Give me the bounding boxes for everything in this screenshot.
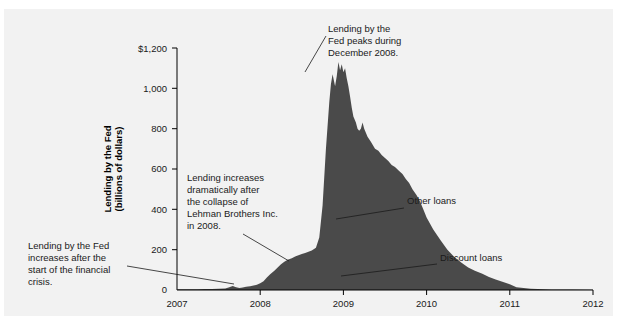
annotation-peak: Lending by the Fed peaks during December… — [305, 23, 401, 72]
annotation-crisis: Lending by the Fed increases after the s… — [28, 240, 234, 287]
y-tick-label: 800 — [151, 123, 167, 134]
y-tick-label: 0 — [162, 284, 167, 295]
x-tick-label: 2008 — [250, 298, 271, 309]
annotation-lehman: Lending increases dramatically after the… — [187, 172, 289, 261]
y-tick-label: 200 — [151, 244, 167, 255]
annotation-lehman-line: Lending increases — [187, 172, 264, 183]
annotation-lehman-line: the collapse of — [187, 196, 249, 207]
y-tick-label: 400 — [151, 204, 167, 215]
annotation-crisis-line: start of the financial — [28, 264, 110, 275]
y-tick-label: $1,200 — [138, 43, 167, 54]
discount-loans-label: Discount loans — [440, 252, 503, 263]
figure-container: Lending by the Fed (billions of dollars)… — [0, 0, 617, 326]
y-axis-tick-labels: $1,200 1,000 800 600 400 200 0 — [138, 43, 167, 296]
annotation-peak-line: December 2008. — [328, 47, 398, 58]
y-tick-label: 600 — [151, 163, 167, 174]
x-tick-label: 2011 — [500, 298, 520, 309]
annotation-peak-line: Lending by the — [328, 23, 390, 34]
x-axis-tick-labels: 2007 2008 2009 2010 2011 2012 — [166, 298, 603, 309]
annotation-lehman-line: Lehman Brothers Inc. — [187, 208, 278, 219]
annotation-crisis-line: increases after the — [28, 252, 106, 263]
y-axis-title: Lending by the Fed (billions of dollars) — [102, 125, 124, 212]
lending-by-the-fed-area-chart: Lending by the Fed (billions of dollars)… — [0, 0, 617, 326]
y-axis-tick-marks — [172, 48, 177, 250]
annotation-crisis-line: Lending by the Fed — [28, 240, 109, 251]
x-tick-label: 2007 — [166, 298, 187, 309]
x-tick-label: 2012 — [582, 298, 603, 309]
y-axis-title-line1: Lending by the Fed — [102, 125, 113, 212]
x-tick-label: 2009 — [333, 298, 354, 309]
annotation-peak-line: Fed peaks during — [328, 35, 401, 46]
other-loans-label: Other loans — [407, 195, 456, 206]
annotation-lehman-line: dramatically after — [187, 184, 259, 195]
x-axis-tick-marks — [260, 290, 593, 295]
annotation-lehman-line: in 2008. — [187, 220, 221, 231]
x-tick-label: 2010 — [416, 298, 437, 309]
y-tick-label: 1,000 — [143, 83, 167, 94]
y-axis-title-line2: (billions of dollars) — [113, 127, 124, 212]
annotation-crisis-line: crisis. — [28, 276, 52, 287]
